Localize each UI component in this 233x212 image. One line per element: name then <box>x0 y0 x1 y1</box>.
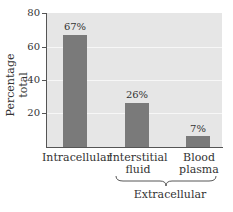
y-axis-label: Percentage total <box>4 40 30 130</box>
bar-label-blood-plasma: 7% <box>178 123 218 134</box>
y-tick-60 <box>42 47 46 48</box>
y-tick-label-80: 80 <box>20 8 40 18</box>
bar-blood-plasma <box>186 136 210 147</box>
y-tick-20 <box>42 113 46 114</box>
category-blood-plasma: Blood plasma <box>176 152 222 176</box>
bar-interstitial-fluid <box>125 103 149 147</box>
bar-intracellular <box>63 35 87 147</box>
category-label: Intracellular <box>42 152 108 164</box>
category-intracellular: Intracellular <box>42 152 108 164</box>
x-axis <box>46 147 223 148</box>
group-brace-icon <box>115 175 217 187</box>
y-axis <box>46 13 47 148</box>
bar-label-interstitial-fluid: 26% <box>117 89 157 100</box>
y-tick-40 <box>42 80 46 81</box>
bar-label-intracellular: 67% <box>55 21 95 32</box>
group-label-extracellular: Extracellular <box>120 188 220 201</box>
category-interstitial-fluid: Interstitial fluid <box>108 152 168 176</box>
y-tick-80 <box>42 13 46 14</box>
